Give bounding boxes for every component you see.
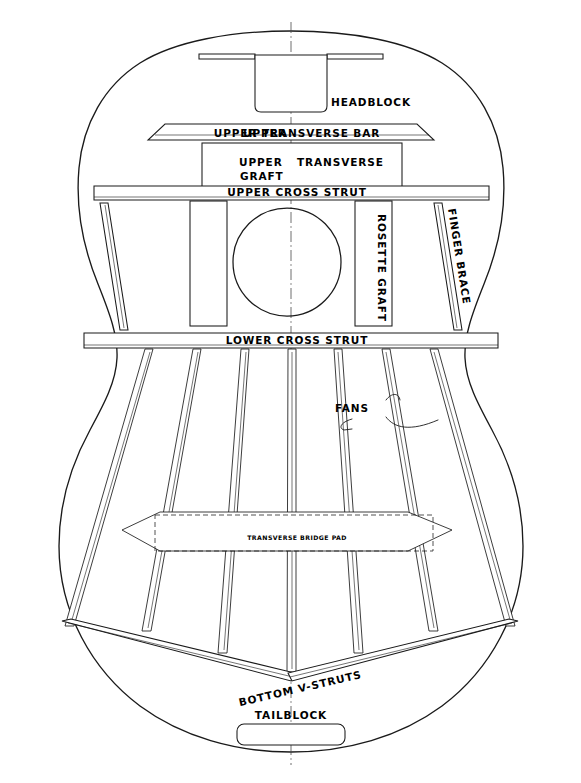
headblock-block bbox=[255, 55, 327, 112]
v-strut-left bbox=[62, 619, 295, 681]
upper-graft-label-line1: UPPER bbox=[239, 156, 283, 168]
upper-cross-strut-label: UPPER CROSS STRUT bbox=[227, 186, 367, 198]
fan-strut bbox=[142, 349, 201, 631]
tailblock bbox=[237, 724, 345, 745]
lower-cross-strut-label: LOWER CROSS STRUT bbox=[226, 334, 369, 346]
soundhole bbox=[233, 208, 341, 316]
transverse-bridge-pad-label: TRANSVERSE BRIDGE PAD bbox=[247, 534, 347, 541]
fan-strut bbox=[287, 349, 296, 672]
headblock-label: HEADBLOCK bbox=[331, 96, 411, 108]
upper-graft-label-line2: GRAFT bbox=[240, 170, 284, 182]
bridge-pad-outline bbox=[122, 512, 452, 551]
fan-strut bbox=[382, 349, 438, 631]
v-strut-right bbox=[288, 619, 518, 681]
drawing-sheet: HEADBLOCK UPPER UPPER TRANSVERSE BAR UPP… bbox=[0, 0, 581, 783]
transverse-bridge-pad bbox=[122, 512, 452, 551]
fan-strut bbox=[218, 349, 249, 653]
rosette-graft-label: ROSETTE GRAFT bbox=[376, 214, 388, 322]
headblock-flange-left bbox=[199, 54, 255, 59]
tailblock-label: TAILBLOCK bbox=[255, 709, 327, 721]
finger-brace-left bbox=[100, 203, 128, 330]
headblock-flange-right bbox=[327, 54, 383, 59]
upper-transverse-label: TRANSVERSE bbox=[297, 156, 384, 168]
fan-struts bbox=[65, 349, 515, 672]
rosette-graft-left bbox=[190, 201, 227, 326]
guitar-bracing-diagram: HEADBLOCK UPPER UPPER TRANSVERSE BAR UPP… bbox=[0, 0, 581, 783]
v-strut-right-inner bbox=[290, 623, 512, 677]
fan-strut bbox=[334, 349, 363, 653]
fans-label: FANS bbox=[335, 402, 369, 414]
upper-transverse-bar-label-right: UPPER TRANSVERSE BAR bbox=[214, 127, 381, 139]
